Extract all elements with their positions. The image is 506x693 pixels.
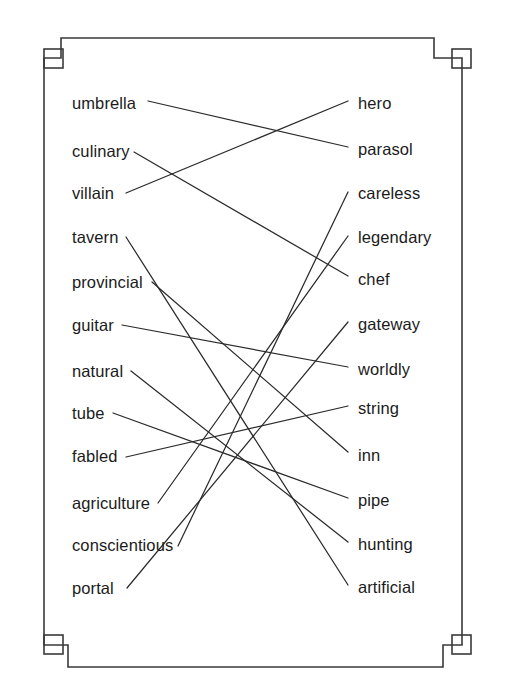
left-word-conscientious[interactable]: conscientious <box>72 537 173 554</box>
right-word-hero[interactable]: hero <box>358 95 391 112</box>
connection-natural-to-hunting <box>131 371 348 542</box>
left-word-agriculture[interactable]: agriculture <box>72 495 150 512</box>
connection-guitar-to-worldly <box>122 325 348 367</box>
connection-provincial-to-inn <box>152 282 348 452</box>
right-word-careless[interactable]: careless <box>358 185 420 202</box>
right-word-chef[interactable]: chef <box>358 271 390 288</box>
connection-agriculture-to-legendary <box>158 236 348 503</box>
connection-conscientious-to-careless <box>178 192 348 546</box>
right-word-pipe[interactable]: pipe <box>358 492 390 509</box>
right-word-string[interactable]: string <box>358 400 399 417</box>
connection-fabled-to-string <box>126 406 348 457</box>
connection-tavern-to-artificial <box>126 237 348 585</box>
left-word-portal[interactable]: portal <box>72 580 114 597</box>
left-word-tube[interactable]: tube <box>72 405 105 422</box>
right-word-parasol[interactable]: parasol <box>358 141 413 158</box>
worksheet-page: umbrellaculinaryvillaintavernprovincialg… <box>0 0 506 693</box>
connection-tube-to-pipe <box>113 413 348 498</box>
left-word-fabled[interactable]: fabled <box>72 448 118 465</box>
left-word-culinary[interactable]: culinary <box>72 143 130 160</box>
left-word-natural[interactable]: natural <box>72 363 123 380</box>
right-word-artificial[interactable]: artificial <box>358 579 415 596</box>
left-word-provincial[interactable]: provincial <box>72 274 143 291</box>
right-word-gateway[interactable]: gateway <box>358 316 420 333</box>
left-word-tavern[interactable]: tavern <box>72 229 118 246</box>
connection-villain-to-hero <box>126 101 348 193</box>
right-word-worldly[interactable]: worldly <box>358 361 410 378</box>
right-word-inn[interactable]: inn <box>358 447 380 464</box>
connection-umbrella-to-parasol <box>148 101 348 147</box>
right-word-hunting[interactable]: hunting <box>358 536 413 553</box>
left-word-guitar[interactable]: guitar <box>72 317 114 334</box>
right-word-legendary[interactable]: legendary <box>358 229 431 246</box>
left-word-villain[interactable]: villain <box>72 185 114 202</box>
left-word-umbrella[interactable]: umbrella <box>72 95 136 112</box>
